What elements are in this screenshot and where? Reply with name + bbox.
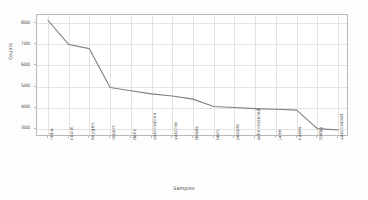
x-tick-label: oxygen xyxy=(90,123,95,140)
counts-line xyxy=(48,20,338,130)
y-tick-label: 300 xyxy=(0,125,30,130)
plot-area xyxy=(36,14,348,136)
x-tick-label: lakh xyxy=(215,130,220,140)
x-tick-mark xyxy=(275,136,276,138)
x-tick-label: administered xyxy=(256,109,261,140)
x-tick-mark xyxy=(192,136,193,138)
x-tick-label: people xyxy=(235,124,240,140)
x-tick-mark xyxy=(109,136,110,138)
chart-figure: Counts 300400500600700800 indiacovidoxyg… xyxy=(0,0,368,200)
x-tick-label: vaccine xyxy=(173,122,178,140)
y-tick-label: 400 xyxy=(0,104,30,109)
y-tick-label: 800 xyxy=(0,20,30,25)
x-tick-mark xyxy=(130,136,131,138)
x-tick-label: covid xyxy=(69,127,74,140)
x-tick-label: delhi xyxy=(132,128,137,140)
x-tick-label: vaccinated xyxy=(339,114,344,140)
y-tick-label: 600 xyxy=(0,62,30,67)
y-tick-label: 700 xyxy=(0,41,30,46)
x-axis-label: Samples xyxy=(0,186,368,191)
x-tick-label: doses xyxy=(194,126,199,140)
data-line-series xyxy=(37,15,347,135)
x-tick-label: india xyxy=(49,128,54,140)
x-tick-mark xyxy=(213,136,214,138)
x-tick-label: today xyxy=(318,126,323,140)
x-tick-label: report xyxy=(111,125,116,140)
x-tick-mark xyxy=(47,136,48,138)
y-tick-label: 500 xyxy=(0,83,30,88)
x-tick-mark xyxy=(337,136,338,138)
x-tick-label: june xyxy=(277,130,282,140)
x-tick-label: vaccination xyxy=(152,113,157,141)
x-tick-label: cases xyxy=(297,127,302,140)
